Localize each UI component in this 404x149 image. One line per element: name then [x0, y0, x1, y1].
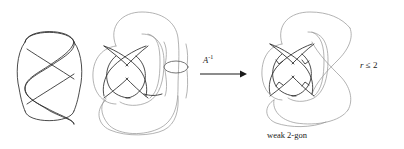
- twist-crossing-lower: [27, 74, 74, 104]
- lower-x-arm-left: [104, 78, 128, 98]
- orientation-arrowhead-lower-left: [276, 82, 283, 86]
- arrow-label: A-1: [203, 54, 213, 64]
- twist-crossing-upper: [27, 49, 74, 79]
- inner-right-lobe: [120, 34, 164, 105]
- inner-vertical-strand: [148, 34, 160, 98]
- outer-loop-top: [281, 12, 350, 44]
- inner-lobe-inner: [312, 32, 324, 96]
- right-outer-lower: [186, 70, 188, 98]
- outer-right-descend: [312, 28, 351, 94]
- twist-bottom-cap: [25, 111, 74, 121]
- knot-transformation-figure: A-1: [0, 0, 404, 149]
- twisted-loop-diagram: [14, 16, 88, 134]
- orientation-arrowhead-upper-left: [276, 60, 283, 64]
- arrow-label-exponent: -1: [208, 54, 213, 60]
- right-connector-lower: [165, 70, 167, 96]
- right-outer-upper: [186, 44, 188, 65]
- left-blob: [93, 46, 116, 104]
- outer-lower-left: [267, 100, 326, 127]
- source-knot-diagram: [86, 8, 194, 142]
- outer-loop: [102, 12, 179, 134]
- r-bound-value: 2: [373, 60, 378, 70]
- lower-x-arm-left: [270, 76, 294, 96]
- twist-middle-lobe-left: [17, 42, 25, 111]
- twist-strand-b: [25, 42, 74, 124]
- twist-strand-a: [25, 32, 74, 125]
- outer-lower-arc: [99, 96, 178, 135]
- small-bigon: [164, 61, 188, 73]
- target-knot-diagram: [256, 8, 364, 130]
- arrow-head-icon: [240, 71, 247, 78]
- outer-loop-bottom: [274, 100, 348, 124]
- left-blob: [262, 44, 282, 100]
- upper-x-arm-right: [126, 46, 148, 66]
- r-bound-label: r ≤ 2: [360, 61, 377, 70]
- weak-2gon-caption: weak 2-gon: [267, 131, 307, 140]
- inner-diamond-right: [126, 56, 145, 98]
- inner-diamond-right: [292, 54, 311, 96]
- twist-middle-lobe-right: [74, 42, 82, 111]
- twist-top-cap: [25, 32, 74, 42]
- inner-diamond-left: [107, 56, 130, 98]
